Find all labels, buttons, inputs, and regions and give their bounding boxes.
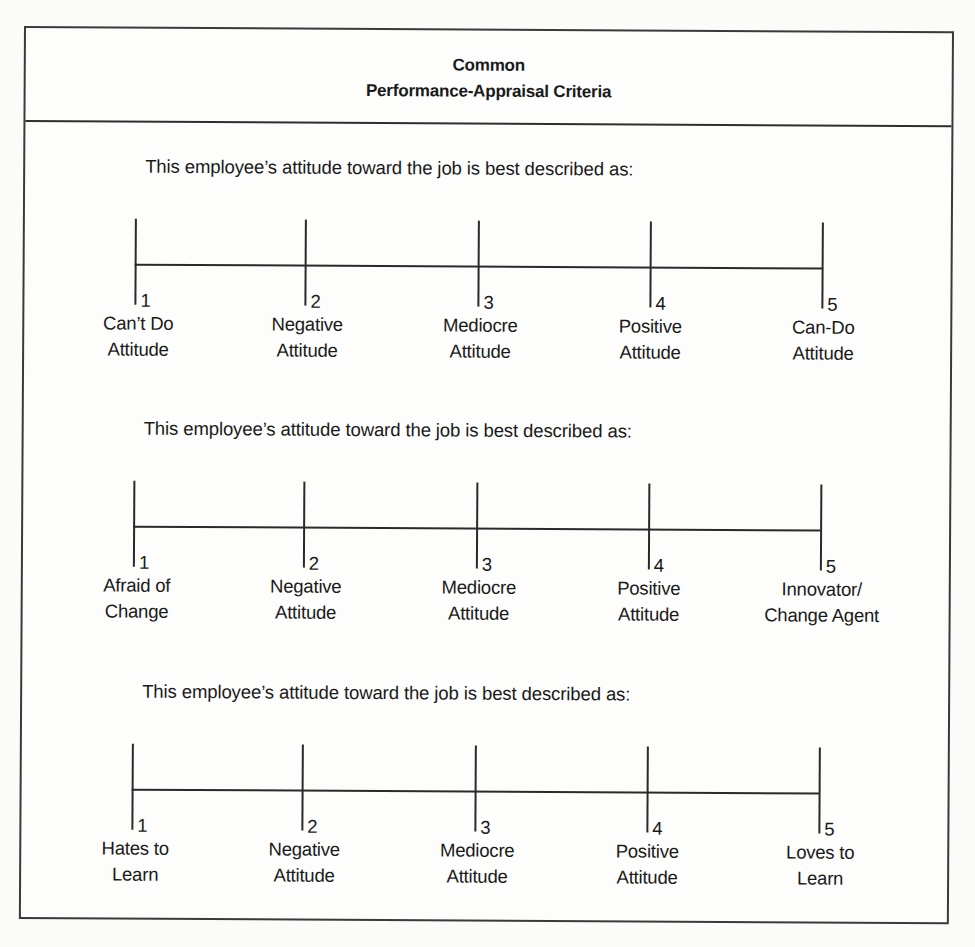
label-line: Negative [221, 573, 391, 600]
label-line: Learn [50, 861, 220, 888]
scale-tick-5[interactable] [821, 223, 823, 309]
scale-tick-2[interactable] [304, 220, 306, 306]
scale-axis: 1 2 3 4 5 Afraid of Change Negative Atti… [23, 416, 950, 621]
label-line: Attitude [392, 863, 562, 890]
label-line: Attitude [395, 338, 565, 365]
scale-number-3: 3 [480, 818, 490, 838]
scale-label-3: Mediocre Attitude [395, 312, 565, 365]
scale-label-2: Negative Attitude [219, 836, 389, 889]
scale-tick-3[interactable] [474, 746, 476, 832]
scale-tick-1[interactable] [133, 481, 135, 567]
label-line: Attitude [221, 599, 391, 626]
label-line: Mediocre [395, 312, 565, 339]
label-line: Attitude [222, 337, 392, 364]
scale-label-3: Mediocre Attitude [394, 574, 564, 627]
scale-label-4: Positive Attitude [562, 838, 732, 891]
label-line: Attitude [562, 864, 732, 891]
scale-number-1: 1 [140, 291, 150, 311]
scale-tick-5[interactable] [818, 748, 820, 834]
label-line: Attitude [565, 339, 735, 366]
page-title: Common Performance-Appraisal Criteria [26, 50, 952, 107]
label-line: Positive [565, 313, 735, 340]
scale-number-1: 1 [137, 816, 147, 836]
scale-number-4: 4 [652, 819, 662, 839]
scale-tick-4[interactable] [649, 222, 651, 308]
rating-scale-attitude: This employee’s attitude toward the job … [24, 154, 951, 359]
label-line: Positive [562, 838, 732, 865]
label-line: Can’t Do [53, 310, 223, 337]
scale-axis: 1 2 3 4 5 Can’t Do Attitude Negative Att… [24, 154, 951, 359]
scale-label-1: Afraid of Change [52, 572, 222, 625]
scale-number-3: 3 [483, 293, 493, 313]
scale-tick-2[interactable] [301, 745, 303, 831]
scale-label-2: Negative Attitude [221, 573, 391, 626]
scale-number-2: 2 [309, 554, 319, 574]
scale-label-4: Positive Attitude [565, 313, 735, 366]
scale-label-5: Innovator/ Change Agent [737, 576, 907, 629]
label-line: Attitude [564, 601, 734, 628]
scale-label-4: Positive Attitude [564, 575, 734, 628]
scale-label-2: Negative Attitude [222, 311, 392, 364]
label-line: Positive [564, 575, 734, 602]
label-line: Hates to [50, 835, 220, 862]
scale-axis: 1 2 3 4 5 Hates to Learn Negative Attitu… [21, 679, 948, 884]
scale-number-2: 2 [310, 292, 320, 312]
label-line: Change Agent [737, 602, 907, 629]
rating-scale-learning: This employee’s attitude toward the job … [21, 679, 948, 884]
scale-tick-4[interactable] [648, 484, 650, 570]
scale-number-2: 2 [307, 817, 317, 837]
scale-tick-4[interactable] [646, 747, 648, 833]
scale-tick-2[interactable] [303, 482, 305, 568]
scale-number-5: 5 [826, 557, 836, 577]
scale-number-4: 4 [654, 556, 664, 576]
label-line: Loves to [735, 839, 905, 866]
scale-tick-3[interactable] [477, 221, 479, 307]
criteria-form-frame: Common Performance-Appraisal Criteria Th… [19, 26, 954, 924]
label-line: Innovator/ [737, 576, 907, 603]
label-line: Learn [735, 865, 905, 892]
title-line-2: Performance-Appraisal Criteria [26, 76, 952, 107]
label-line: Change [52, 598, 222, 625]
label-line: Attitude [53, 336, 223, 363]
label-line: Afraid of [52, 572, 222, 599]
scale-tick-3[interactable] [476, 483, 478, 569]
label-line: Attitude [219, 862, 389, 889]
scale-tick-1[interactable] [134, 219, 136, 305]
scale-number-4: 4 [655, 294, 665, 314]
label-line: Negative [222, 311, 392, 338]
scale-label-1: Can’t Do Attitude [53, 310, 223, 363]
label-line: Mediocre [392, 837, 562, 864]
scale-label-5: Loves to Learn [735, 839, 905, 892]
scale-number-3: 3 [482, 555, 492, 575]
label-line: Attitude [738, 340, 908, 367]
form-header: Common Performance-Appraisal Criteria [25, 28, 952, 127]
label-line: Can-Do [738, 314, 908, 341]
rating-scale-change: This employee’s attitude toward the job … [23, 416, 950, 621]
scale-label-1: Hates to Learn [50, 835, 220, 888]
scale-tick-1[interactable] [131, 744, 133, 830]
scale-label-5: Can-Do Attitude [738, 314, 908, 367]
scale-number-1: 1 [139, 553, 149, 573]
label-line: Mediocre [394, 574, 564, 601]
scale-tick-5[interactable] [820, 485, 822, 571]
label-line: Negative [219, 836, 389, 863]
scale-label-3: Mediocre Attitude [392, 837, 562, 890]
scale-number-5: 5 [824, 820, 834, 840]
scale-number-5: 5 [827, 295, 837, 315]
label-line: Attitude [394, 600, 564, 627]
